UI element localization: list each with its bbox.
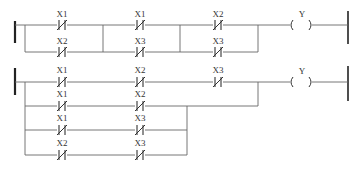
contact-x2: X2 (135, 89, 146, 111)
coil-y: Y (287, 66, 315, 87)
svg-text:X1: X1 (57, 9, 68, 19)
svg-text:X3: X3 (135, 36, 146, 46)
svg-text:Y: Y (299, 66, 306, 76)
svg-text:X2: X2 (57, 36, 68, 46)
svg-text:X3: X3 (135, 138, 146, 148)
contact-x1: X1 (57, 89, 68, 111)
contact-x2: X2 (135, 65, 146, 87)
contact-x3: X3 (213, 36, 224, 57)
contact-x1: X1 (57, 9, 68, 30)
svg-text:X3: X3 (135, 113, 146, 123)
contact-x3: X3 (135, 113, 146, 135)
svg-text:X2: X2 (213, 9, 224, 19)
svg-text:X3: X3 (213, 65, 224, 75)
svg-text:X1: X1 (135, 9, 146, 19)
coil-y: Y (287, 9, 315, 30)
contact-x2: X2 (57, 138, 68, 160)
svg-text:Y: Y (299, 9, 306, 19)
contact-x1: X1 (57, 65, 68, 87)
ladder-diagram: X1 X2 X1 X3 X2 X3 Y (0, 0, 358, 174)
svg-text:X1: X1 (57, 65, 68, 75)
contact-x2: X2 (57, 36, 68, 57)
svg-text:X1: X1 (57, 89, 68, 99)
contact-x3: X3 (135, 138, 146, 160)
svg-text:X3: X3 (213, 36, 224, 46)
svg-text:X1: X1 (57, 113, 68, 123)
contact-x3: X3 (135, 36, 146, 57)
contact-x2: X2 (213, 9, 224, 30)
svg-text:X2: X2 (57, 138, 68, 148)
contact-x3: X3 (213, 65, 224, 87)
ladder-2: X1 X2 X3 X1 X2 X1 X3 (15, 65, 348, 160)
contact-x1: X1 (135, 9, 146, 30)
svg-text:X2: X2 (135, 89, 146, 99)
svg-text:X2: X2 (135, 65, 146, 75)
contact-x1: X1 (57, 113, 68, 135)
ladder-1: X1 X2 X1 X3 X2 X3 Y (15, 9, 348, 57)
